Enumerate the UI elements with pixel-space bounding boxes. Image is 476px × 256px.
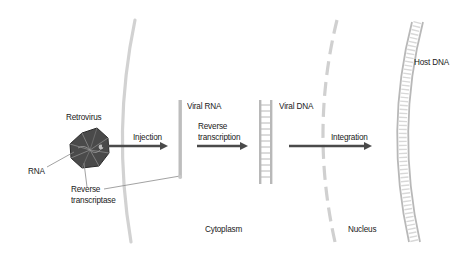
integration-arrow — [289, 142, 372, 150]
viral-rna-strand — [178, 100, 182, 179]
reverse-transcriptase-label-line1: Reverse — [71, 183, 100, 194]
rna-label: RNA — [28, 165, 45, 176]
reverse-transcription-arrow — [197, 142, 248, 150]
host-dna-label: Host DNA — [414, 56, 449, 67]
integration-label: Integration — [331, 131, 368, 142]
viral-dna-label: Viral DNA — [279, 100, 313, 111]
injection-arrow — [102, 142, 168, 150]
reverse-transcription-label-line2: transcription — [198, 131, 240, 142]
cytoplasm-label: Cytoplasm — [205, 223, 242, 234]
rt-leader-line-to-rna — [104, 176, 180, 189]
reverse-transcription-label-line1: Reverse — [198, 120, 227, 131]
injection-label: Injection — [133, 131, 162, 142]
rna-leader-line — [47, 152, 74, 167]
retrovirus-diagram: Retrovirus RNA Reverse transcriptase Inj… — [0, 0, 476, 256]
host-dna-strand — [397, 22, 423, 242]
viral-rna-label: Viral RNA — [187, 100, 221, 111]
viral-dna-strand — [259, 100, 272, 184]
retrovirus-label: Retrovirus — [66, 111, 102, 122]
retrovirus-particle-icon — [70, 128, 109, 168]
nucleus-label: Nucleus — [348, 223, 376, 234]
reverse-transcriptase-label-line2: transcriptase — [71, 194, 116, 205]
